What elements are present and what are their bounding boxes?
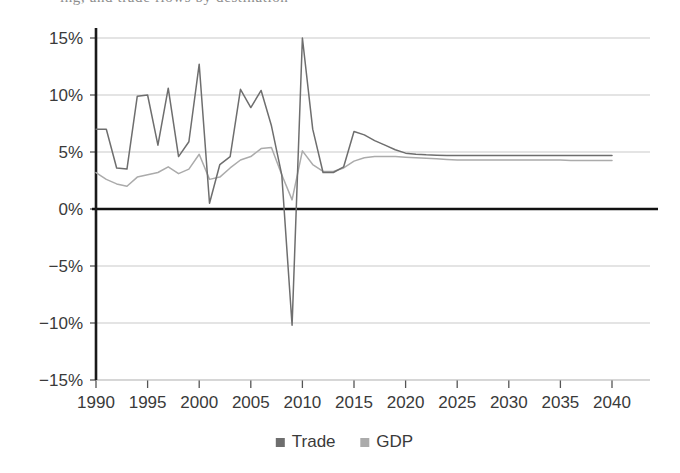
x-tick-label: 2010 — [283, 393, 321, 412]
chart-legend: TradeGDP — [276, 432, 413, 451]
x-tick-label: 2025 — [438, 393, 476, 412]
y-tick-label: −15% — [39, 371, 83, 390]
x-tick-label: 1990 — [77, 393, 115, 412]
y-tick-label: 15% — [49, 29, 83, 48]
y-tick-label: −5% — [49, 257, 84, 276]
x-tick-label: 2035 — [541, 393, 579, 412]
x-tick-label: 1995 — [129, 393, 167, 412]
y-tick-label: 0% — [58, 200, 83, 219]
legend-swatch-gdp — [360, 438, 369, 447]
chart-container: ing, and trade flows by destination 15%1… — [0, 0, 680, 473]
x-axis-ticks — [96, 380, 650, 388]
x-tick-label: 2030 — [490, 393, 528, 412]
x-axis-labels: 1990199520002005201020152020202520302035… — [77, 393, 631, 412]
line-chart: 15%10%5%0%−5%−10%−15% 199019952000200520… — [0, 0, 680, 473]
y-tick-label: −10% — [39, 314, 83, 333]
x-tick-label: 2015 — [335, 393, 373, 412]
y-axis-labels: 15%10%5%0%−5%−10%−15% — [39, 29, 83, 390]
x-tick-label: 2005 — [232, 393, 270, 412]
x-tick-label: 2020 — [387, 393, 425, 412]
legend-label-trade: Trade — [292, 432, 336, 451]
cropped-header-text: ing, and trade flows by destination — [0, 0, 680, 14]
legend-swatch-trade — [276, 438, 285, 447]
y-tick-label: 5% — [58, 143, 83, 162]
y-tick-label: 10% — [49, 86, 83, 105]
series-line-trade — [96, 38, 612, 325]
data-series — [96, 38, 612, 325]
legend-label-gdp: GDP — [376, 432, 413, 451]
x-tick-label: 2000 — [180, 393, 218, 412]
x-tick-label: 2040 — [593, 393, 631, 412]
cropped-header-label: ing, and trade flows by destination — [60, 0, 680, 6]
